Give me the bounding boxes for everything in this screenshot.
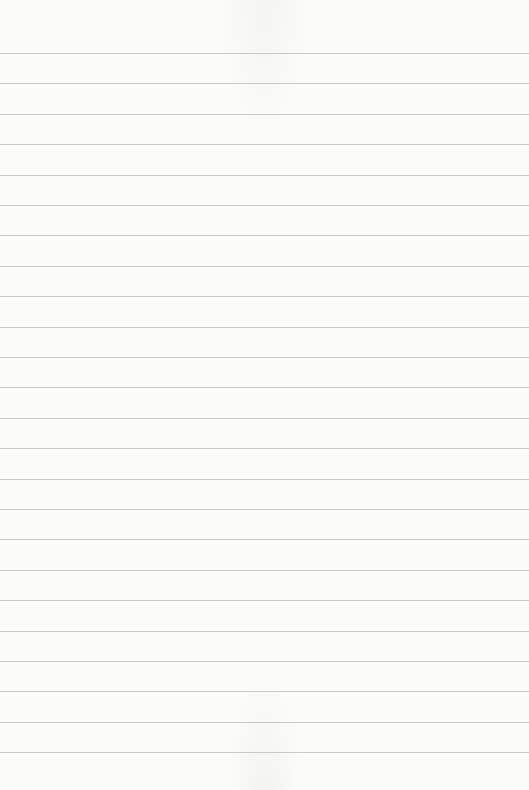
ruled-line <box>0 83 529 84</box>
ruled-line <box>0 205 529 206</box>
ruled-line <box>0 418 529 419</box>
ruled-line <box>0 235 529 236</box>
ruled-line <box>0 296 529 297</box>
ruled-line <box>0 631 529 632</box>
ruled-line <box>0 387 529 388</box>
ruled-line <box>0 722 529 723</box>
ruled-line <box>0 53 529 54</box>
ruled-line <box>0 691 529 692</box>
ruled-line <box>0 509 529 510</box>
ruled-line <box>0 144 529 145</box>
ruled-line <box>0 661 529 662</box>
ruled-line <box>0 752 529 753</box>
ruled-line <box>0 357 529 358</box>
ruled-line <box>0 266 529 267</box>
lined-paper-sheet <box>0 0 529 790</box>
ruled-line <box>0 114 529 115</box>
ruled-line <box>0 570 529 571</box>
ruled-line <box>0 175 529 176</box>
ruled-line <box>0 448 529 449</box>
ruled-line <box>0 600 529 601</box>
ruled-line <box>0 327 529 328</box>
ruled-line <box>0 479 529 480</box>
ruled-line <box>0 539 529 540</box>
